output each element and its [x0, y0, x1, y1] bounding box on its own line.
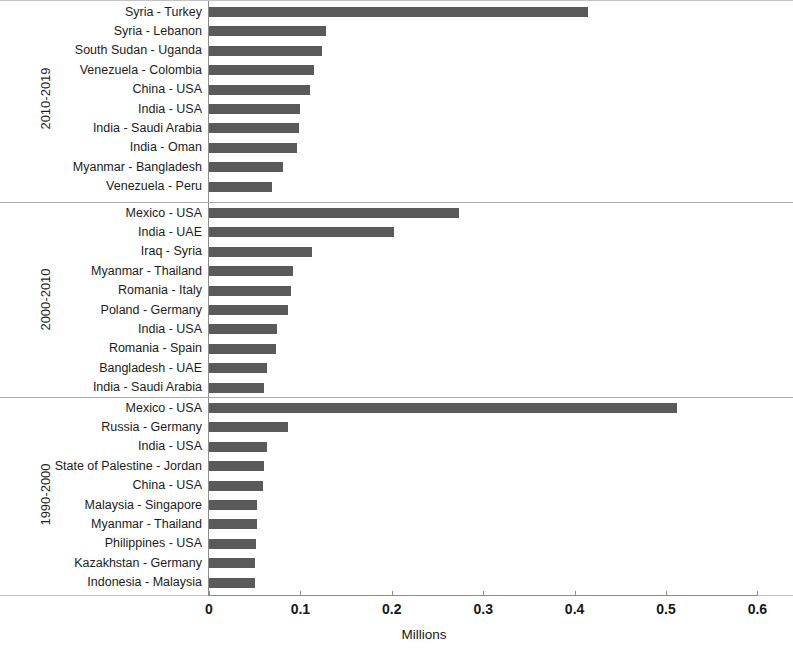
bar [209, 208, 459, 218]
bar [209, 7, 588, 17]
bar [209, 324, 277, 334]
corridor-label: India - Saudi Arabia [40, 378, 202, 397]
bar-row: India - Saudi Arabia [0, 119, 793, 138]
bar-row: Romania - Spain [0, 339, 793, 358]
bar [209, 403, 677, 413]
bar-row: India - USA [0, 100, 793, 119]
bar [209, 26, 326, 36]
bar-row: India - USA [0, 320, 793, 339]
corridor-label: Russia - Germany [40, 418, 202, 437]
bar-row: Russia - Germany [0, 418, 793, 437]
axis-tick [209, 591, 210, 596]
bar-row: Venezuela - Colombia [0, 61, 793, 80]
axis-tick [300, 591, 301, 596]
bar [209, 162, 283, 172]
axis-tick-label: 0.1 [278, 601, 322, 617]
corridor-label: India - UAE [40, 223, 202, 242]
bar-row: Mexico - USA [0, 399, 793, 418]
bar-row: Syria - Turkey [0, 3, 793, 22]
bar [209, 305, 288, 315]
panel-separator-top [0, 0, 793, 1]
corridor-label: Mexico - USA [40, 204, 202, 223]
bar [209, 461, 264, 471]
bar-row: South Sudan - Uganda [0, 41, 793, 60]
corridor-label: Kazakhstan - Germany [40, 554, 202, 573]
bar [209, 481, 263, 491]
bar-row: India - Oman [0, 138, 793, 157]
value-axis: 00.10.20.30.40.50.6 Millions [0, 595, 793, 654]
axis-tick-label: 0 [187, 601, 231, 617]
bar-row: China - USA [0, 476, 793, 495]
axis-tick-label: 0.4 [553, 601, 597, 617]
bar [209, 539, 256, 549]
bar [209, 123, 299, 133]
bar-row: India - UAE [0, 223, 793, 242]
bar-row: Myanmar - Thailand [0, 262, 793, 281]
corridor-label: Philippines - USA [40, 534, 202, 553]
corridor-label: Iraq - Syria [40, 242, 202, 261]
bar [209, 500, 257, 510]
axis-tick [575, 591, 576, 596]
bar-row: Malaysia - Singapore [0, 496, 793, 515]
bar [209, 266, 293, 276]
bar-row: Indonesia - Malaysia [0, 573, 793, 592]
bar [209, 85, 310, 95]
bar [209, 344, 276, 354]
bar-row: Philippines - USA [0, 534, 793, 553]
bar-row: Bangladesh - UAE [0, 359, 793, 378]
bar [209, 247, 312, 257]
corridor-label: China - USA [40, 476, 202, 495]
bar [209, 519, 257, 529]
corridor-label: Mexico - USA [40, 399, 202, 418]
bar-row: China - USA [0, 80, 793, 99]
corridor-label: Indonesia - Malaysia [40, 573, 202, 592]
axis-tick-label: 0.3 [461, 601, 505, 617]
bar-row: Kazakhstan - Germany [0, 554, 793, 573]
axis-tick [757, 591, 758, 596]
panel-separator [0, 202, 793, 203]
migration-corridor-bar-chart: 2010-2019Syria - TurkeySyria - LebanonSo… [0, 0, 793, 654]
bar [209, 65, 314, 75]
corridor-label: India - Saudi Arabia [40, 119, 202, 138]
bar [209, 578, 255, 588]
plot-area: 2010-2019Syria - TurkeySyria - LebanonSo… [0, 0, 793, 596]
corridor-label: Venezuela - Peru [40, 177, 202, 196]
corridor-label: Syria - Turkey [40, 3, 202, 22]
corridor-label: Myanmar - Bangladesh [40, 158, 202, 177]
bar-row: Myanmar - Thailand [0, 515, 793, 534]
corridor-label: Bangladesh - UAE [40, 359, 202, 378]
corridor-label: South Sudan - Uganda [40, 41, 202, 60]
bar [209, 422, 288, 432]
bar [209, 104, 300, 114]
corridor-label: Malaysia - Singapore [40, 496, 202, 515]
bar [209, 182, 272, 192]
corridor-label: State of Palestine - Jordan [40, 457, 202, 476]
corridor-label: Syria - Lebanon [40, 22, 202, 41]
corridor-label: India - USA [40, 437, 202, 456]
corridor-label: Romania - Italy [40, 281, 202, 300]
corridor-label: China - USA [40, 80, 202, 99]
bar-row: India - Saudi Arabia [0, 378, 793, 397]
bar [209, 143, 297, 153]
axis-tick-label: 0.6 [735, 601, 779, 617]
bar [209, 558, 255, 568]
panel-separator [0, 397, 793, 398]
bar [209, 383, 264, 393]
bar [209, 286, 291, 296]
bar-row: Venezuela - Peru [0, 177, 793, 196]
bar-row: Myanmar - Bangladesh [0, 158, 793, 177]
corridor-label: India - USA [40, 320, 202, 339]
corridor-label: India - Oman [40, 138, 202, 157]
corridor-label: Poland - Germany [40, 301, 202, 320]
bar-row: Syria - Lebanon [0, 22, 793, 41]
axis-tick [392, 591, 393, 596]
corridor-label: India - USA [40, 100, 202, 119]
bar-row: India - USA [0, 437, 793, 456]
corridor-label: Romania - Spain [40, 339, 202, 358]
axis-tick-label: 0.5 [644, 601, 688, 617]
corridor-label: Myanmar - Thailand [40, 515, 202, 534]
bar-row: Mexico - USA [0, 204, 793, 223]
bar [209, 363, 267, 373]
bar-row: State of Palestine - Jordan [0, 457, 793, 476]
bar [209, 442, 267, 452]
